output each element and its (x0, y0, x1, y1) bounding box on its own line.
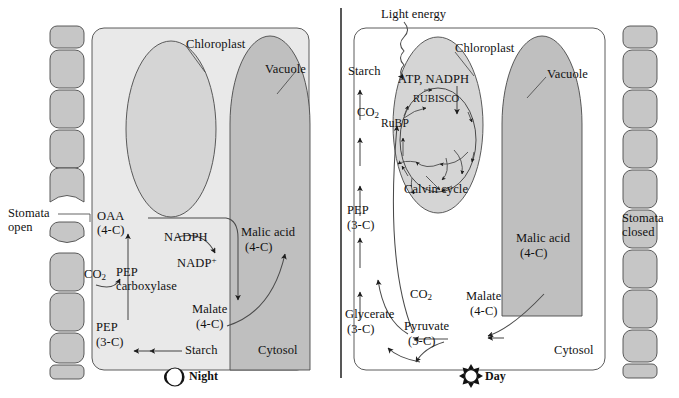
day-co2-lower-label: CO2 (410, 288, 432, 304)
glycerate-carbons: (3-C) (347, 323, 375, 336)
night-vacuole-label: Vacuole (265, 63, 306, 76)
rubisco-label: RUBISCO (413, 92, 459, 105)
night-stomata-label-line2: open (8, 221, 33, 234)
day-stomata-label-line1: Stomata (622, 212, 664, 225)
oaa-label: OAA (97, 210, 124, 223)
night-malic-acid-carbons: (4-C) (245, 241, 273, 254)
day-co2-lower-sub: 2 (428, 292, 433, 302)
day-pep-label: PEP (347, 204, 369, 217)
atp-nadph-label: ATP, NADPH (398, 73, 469, 86)
night-chloroplast-label: Chloroplast (186, 38, 245, 51)
day-chloroplast-label: Chloroplast (455, 42, 514, 55)
light-energy-label: Light energy (381, 8, 446, 21)
night-pep-carbons: (3-C) (96, 336, 124, 349)
day-malate-carbons: (4-C) (470, 305, 498, 318)
night-chloroplast (126, 41, 216, 217)
day-stomata-label-line2: closed (622, 226, 655, 239)
pyruvate-carbons: (3-C) (408, 335, 436, 348)
day-cytosol-label: Cytosol (554, 344, 594, 357)
night-co2-label: CO2 (84, 268, 106, 284)
day-malate-label: Malate (466, 290, 501, 303)
night-starch-label: Starch (185, 344, 218, 357)
day-co2-upper-label: CO2 (357, 106, 379, 122)
day-starch-label: Starch (348, 65, 381, 78)
day-malic-acid-carbons: (4-C) (520, 247, 548, 260)
nadp-plus-label: NADP+ (177, 254, 217, 270)
stomata-column-closed (623, 26, 657, 378)
night-stomata-label-line1: Stomata (8, 207, 50, 220)
day-pep-carbons: (3-C) (347, 219, 375, 232)
glycerate-label: Glycerate (345, 308, 394, 321)
nadph-label: NADPH (164, 231, 208, 244)
night-malate-carbons: (4-C) (196, 318, 224, 331)
day-co2-upper-sub: 2 (375, 110, 380, 120)
oaa-carbons: (4-C) (97, 224, 125, 237)
day-co2-upper-text: CO (357, 105, 375, 119)
nadp-plus-charge: + (211, 255, 216, 265)
day-phase-label: Day (485, 370, 506, 383)
night-malate-label: Malate (192, 303, 227, 316)
day-malic-acid-label: Malic acid (516, 232, 570, 245)
night-phase-label: Night (189, 370, 218, 383)
pep-carboxylase-line2: carboxylase (116, 280, 177, 293)
night-co2-sub: 2 (102, 272, 107, 282)
moon-icon (164, 368, 184, 386)
night-malic-acid-label: Malic acid (241, 226, 295, 239)
stomata-column-open (50, 26, 84, 379)
sun-icon (459, 364, 483, 388)
rubp-label: RuBP (381, 117, 409, 130)
night-pep-label: PEP (96, 321, 118, 334)
pep-carboxylase-line1: PEP (116, 266, 138, 279)
night-co2-text: CO (84, 267, 102, 281)
day-co2-lower-text: CO (410, 287, 428, 301)
cam-photosynthesis-figure: Chloroplast Vacuole Stomata open OAA (4-… (0, 0, 679, 398)
night-cytosol-label: Cytosol (258, 344, 298, 357)
leader-stomata-open (58, 214, 90, 222)
nadp-plus-text: NADP (177, 256, 211, 270)
pyruvate-label: Pyruvate (404, 320, 449, 333)
calvin-cycle-label: Calvin cycle (404, 183, 468, 196)
day-vacuole-label: Vacuole (547, 68, 588, 81)
